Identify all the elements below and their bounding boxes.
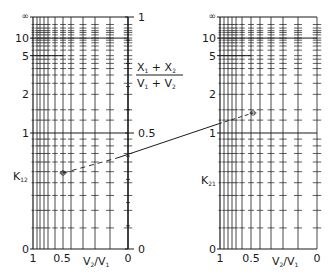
v-ratio-tick-label: 0 (314, 252, 321, 265)
nomogram: ∞105210K1210.50V2/V1 10.50X1 + X2V1 + V2… (0, 0, 331, 279)
k-scale-label: 0 (22, 243, 29, 256)
left-grid-k12: ∞105210K1210.50V2/V1 (13, 11, 132, 268)
middle-axis-mole-fraction: 10.50X1 + X2V1 + V2 (125, 11, 183, 256)
k-scale-label: 1 (209, 127, 216, 140)
v-ratio-tick-label: 0 (125, 252, 132, 265)
k-scale-label: ∞ (22, 11, 30, 21)
k-scale-label: 2 (22, 88, 29, 101)
fraction-scale-label: 0.5 (138, 127, 156, 140)
v-ratio-tick-label: 0.5 (53, 252, 71, 265)
k-scale-label: 1 (22, 127, 29, 140)
right-grid-k21: ∞105210K2110.50V2/V1 (201, 11, 321, 268)
k21-axis-label: K21 (201, 174, 216, 187)
fraction-numerator: X1 + X2 (137, 61, 176, 74)
k-scale-label: 0 (209, 243, 216, 256)
k-scale-label: ∞ (209, 11, 217, 21)
k-scale-label: 10 (202, 32, 216, 45)
fraction-scale-label: 0 (138, 243, 145, 256)
v-ratio-axis-label: V2/V1 (83, 255, 110, 268)
fraction-denominator: V1 + V2 (137, 77, 176, 90)
dashed-segment-right (218, 113, 253, 124)
v-ratio-tick-label: 1 (217, 252, 224, 265)
solid-segment (117, 124, 218, 158)
k-scale-label: 5 (22, 50, 29, 63)
v-ratio-tick-label: 0.5 (242, 252, 260, 265)
v-ratio-axis-label: V2/V1 (272, 255, 299, 268)
k-scale-label: 2 (209, 88, 216, 101)
v-ratio-tick-label: 1 (30, 252, 37, 265)
k-scale-label: 10 (15, 32, 29, 45)
fraction-scale-label: 1 (138, 11, 145, 24)
k-scale-label: 5 (209, 50, 216, 63)
k12-axis-label: K12 (13, 170, 28, 183)
